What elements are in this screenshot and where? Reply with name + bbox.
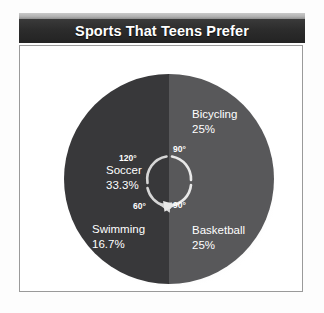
- slice-percent-swimming: 16.7%: [92, 238, 125, 250]
- chart-title-bar: Sports That Teens Prefer: [19, 19, 305, 43]
- chart-title: Sports That Teens Prefer: [75, 23, 249, 39]
- slice-percent-bicycling: 25%: [192, 123, 215, 135]
- pie-chart-svg: Soccer 33.3% Bicycling 25% Basketball 25…: [20, 46, 302, 291]
- slice-label-soccer: Soccer: [106, 164, 142, 176]
- pie-chart-figure: Sports That Teens Prefer: [0, 0, 324, 313]
- angle-label-soccer: 120°: [119, 153, 137, 163]
- slice-percent-soccer: 33.3%: [106, 179, 139, 191]
- angle-label-basketball: 90°: [173, 200, 186, 210]
- slice-label-bicycling: Bicycling: [192, 108, 237, 120]
- angle-label-swimming: 60°: [133, 201, 146, 211]
- pie-slice-right-half: [169, 74, 274, 284]
- angle-label-bicycling: 90°: [173, 144, 186, 154]
- slice-label-swimming: Swimming: [92, 223, 145, 235]
- chart-panel: Soccer 33.3% Bicycling 25% Basketball 25…: [19, 45, 303, 292]
- slice-percent-basketball: 25%: [192, 239, 215, 251]
- slice-label-basketball: Basketball: [192, 224, 245, 236]
